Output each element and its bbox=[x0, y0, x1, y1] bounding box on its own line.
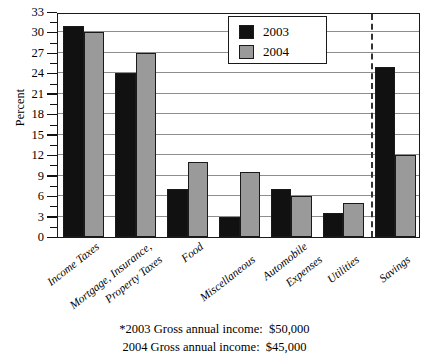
legend-item-2004: 2004 bbox=[239, 42, 326, 62]
y-tick-label: 3 bbox=[18, 211, 44, 224]
gridline bbox=[58, 113, 419, 114]
y-tick-minor bbox=[50, 104, 57, 105]
y-tick-label: 24 bbox=[18, 67, 44, 80]
y-tick-minor bbox=[50, 125, 57, 126]
legend-label-2004: 2004 bbox=[263, 44, 289, 60]
y-tick-label: 33 bbox=[18, 6, 44, 19]
y-tick-label: 18 bbox=[18, 108, 44, 121]
y-tick-minor bbox=[50, 22, 57, 23]
bar-2003-5 bbox=[323, 213, 344, 237]
gridline bbox=[58, 154, 419, 155]
legend-label-2003: 2003 bbox=[263, 24, 289, 40]
chart-caption: *2003 Gross annual income: $50,000 2004 … bbox=[0, 320, 429, 356]
bar-2004-3 bbox=[240, 172, 261, 237]
bar-2004-6 bbox=[395, 155, 416, 237]
y-tick-label: 30 bbox=[18, 26, 44, 39]
y-tick-label: 21 bbox=[18, 88, 44, 101]
gridline bbox=[58, 134, 419, 135]
bar-2003-3 bbox=[219, 217, 240, 237]
y-tick-major bbox=[47, 216, 57, 217]
y-tick-minor bbox=[50, 63, 57, 64]
gridline bbox=[58, 175, 419, 176]
y-tick-major bbox=[47, 73, 57, 74]
y-tick-major bbox=[47, 196, 57, 197]
y-tick-major bbox=[47, 175, 57, 176]
y-tick-minor bbox=[50, 206, 57, 207]
y-tick-minor bbox=[50, 145, 57, 146]
y-tick-minor bbox=[50, 227, 57, 228]
bar-2003-0 bbox=[63, 26, 84, 237]
y-tick-label: 12 bbox=[18, 149, 44, 162]
gridline bbox=[58, 93, 419, 94]
y-tick-major bbox=[47, 12, 57, 13]
y-tick-minor bbox=[50, 84, 57, 85]
bar-2003-4 bbox=[271, 189, 292, 237]
legend: 2003 2004 bbox=[228, 16, 327, 64]
y-tick-label: 9 bbox=[18, 170, 44, 183]
y-tick-label: 15 bbox=[18, 129, 44, 142]
bar-2004-0 bbox=[84, 32, 105, 237]
caption-line-2003: *2003 Gross annual income: $50,000 bbox=[0, 320, 429, 338]
bar-2004-1 bbox=[136, 53, 157, 237]
legend-item-2003: 2003 bbox=[239, 22, 326, 42]
y-axis bbox=[47, 13, 57, 238]
legend-swatch-2003 bbox=[239, 25, 254, 39]
y-tick-major bbox=[47, 114, 57, 115]
gridline bbox=[58, 72, 419, 73]
bar-2004-4 bbox=[291, 196, 312, 237]
y-tick-minor bbox=[50, 43, 57, 44]
y-tick-minor bbox=[50, 186, 57, 187]
bar-2003-6 bbox=[375, 67, 396, 237]
bar-2003-1 bbox=[115, 73, 136, 237]
y-tick-major bbox=[47, 93, 57, 94]
x-axis-labels: Income TaxesMortgage, Insurance,Property… bbox=[0, 236, 429, 326]
bar-2004-2 bbox=[188, 162, 209, 237]
y-tick-major bbox=[47, 53, 57, 54]
y-tick-minor bbox=[50, 165, 57, 166]
caption-line-2004: 2004 Gross annual income: $45,000 bbox=[0, 338, 429, 356]
legend-swatch-2004 bbox=[239, 45, 254, 59]
y-tick-major bbox=[47, 134, 57, 135]
bar-chart-figure: Percent 03691215182124273033 2003 2004 I… bbox=[0, 0, 429, 358]
y-tick-label: 6 bbox=[18, 190, 44, 203]
bar-2003-2 bbox=[167, 189, 188, 237]
savings-divider-line bbox=[371, 14, 373, 237]
bar-2004-5 bbox=[343, 203, 364, 237]
y-tick-major bbox=[47, 155, 57, 156]
gridline bbox=[58, 195, 419, 196]
y-tick-label: 27 bbox=[18, 47, 44, 60]
y-tick-major bbox=[47, 32, 57, 33]
